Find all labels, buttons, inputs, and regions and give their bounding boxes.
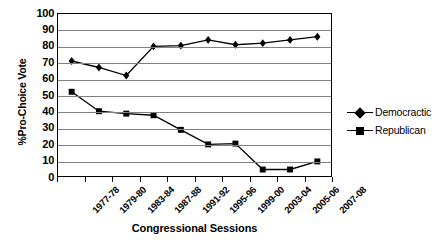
data-point-diamond xyxy=(314,33,320,41)
x-axis-tick-mark xyxy=(85,177,86,182)
x-axis-tick-mark xyxy=(222,177,223,182)
x-axis-tick-label: 1983-84 xyxy=(145,184,176,215)
x-axis-tick-mark xyxy=(332,177,333,182)
series-line xyxy=(72,37,318,76)
x-axis-tick-mark xyxy=(195,177,196,182)
y-axis-tick-label: 40 xyxy=(20,106,54,117)
series-democractic xyxy=(69,33,321,80)
x-axis-tick-label: 1987-88 xyxy=(172,184,203,215)
y-axis-tick-label: 50 xyxy=(20,90,54,101)
legend-item-label: Democractic xyxy=(373,106,431,118)
series-line xyxy=(72,92,318,170)
x-axis-title: Congressional Sessions xyxy=(57,222,332,234)
data-point-square xyxy=(178,127,184,133)
x-axis-tick-mark xyxy=(140,177,141,182)
gridline xyxy=(58,112,331,113)
x-axis-tick-label: 2007-08 xyxy=(337,184,368,215)
square-marker-icon xyxy=(347,123,373,137)
diamond-marker-icon xyxy=(347,105,373,119)
chart-legend: DemocracticRepublican xyxy=(347,103,443,139)
series-layer xyxy=(58,14,331,176)
y-axis-tick-label: 0 xyxy=(20,172,54,183)
y-axis-tick-label: 60 xyxy=(20,73,54,84)
legend-item-label: Republican xyxy=(373,124,426,136)
pro-choice-vote-line-chart: %Pro-Choice Vote 1009080706050403020100 … xyxy=(0,0,443,247)
x-axis-tick-mark xyxy=(57,177,58,182)
series-republican xyxy=(69,89,321,173)
legend-item-democractic[interactable]: Democractic xyxy=(347,103,443,121)
x-axis-tick-label: 1995-96 xyxy=(227,184,258,215)
gridline xyxy=(58,47,331,48)
gridline xyxy=(58,96,331,97)
y-axis-tick-label: 30 xyxy=(20,122,54,133)
y-axis-tick-label: 20 xyxy=(20,139,54,150)
x-axis-tick-mark xyxy=(250,177,251,182)
x-axis-tick-label: 1999-00 xyxy=(255,184,286,215)
legend-item-republican[interactable]: Republican xyxy=(347,121,443,139)
gridline xyxy=(58,63,331,64)
data-point-square xyxy=(260,167,266,173)
x-axis-tick-label: 2005-06 xyxy=(310,184,341,215)
x-axis-tick-label: 1979-80 xyxy=(117,184,148,215)
x-axis-tick-mark xyxy=(305,177,306,182)
x-axis-tick-label: 1977-78 xyxy=(90,184,121,215)
x-axis-tick-label: 1991-92 xyxy=(200,184,231,215)
y-axis-tick-labels: 1009080706050403020100 xyxy=(20,0,54,247)
gridline xyxy=(58,145,331,146)
x-axis-tick-mark xyxy=(277,177,278,182)
data-point-diamond xyxy=(178,42,184,50)
y-axis-tick-label: 100 xyxy=(20,8,54,19)
data-point-diamond xyxy=(96,64,102,72)
y-axis-tick-label: 90 xyxy=(20,24,54,35)
y-axis-tick-label: 10 xyxy=(20,155,54,166)
x-axis-tick-mark xyxy=(112,177,113,182)
gridline xyxy=(58,30,331,31)
gridline xyxy=(58,80,331,81)
x-axis-tick-label: 2003-04 xyxy=(282,184,313,215)
data-point-square xyxy=(287,167,293,173)
data-point-diamond xyxy=(205,36,211,44)
gridline xyxy=(58,129,331,130)
y-axis-tick-label: 80 xyxy=(20,40,54,51)
gridline xyxy=(58,162,331,163)
data-point-diamond xyxy=(287,36,293,44)
x-axis-tick-mark xyxy=(167,177,168,182)
data-point-square xyxy=(69,89,75,95)
plot-area xyxy=(57,13,332,177)
y-axis-tick-label: 70 xyxy=(20,57,54,68)
